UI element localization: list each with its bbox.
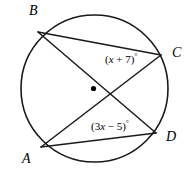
chord-bc [38, 32, 161, 55]
vertex-label-a: A [22, 152, 31, 166]
chord-bd [38, 32, 156, 133]
vertex-label-b: B [29, 4, 38, 18]
angle-label-at-c: (x + 7)° [104, 53, 138, 65]
vertex-label-d: D [166, 130, 176, 144]
angle-label-at-d: (3x − 5)° [90, 120, 130, 132]
chord-ac [41, 55, 161, 147]
chord-ad [41, 133, 156, 147]
geometry-canvas [0, 0, 195, 176]
circle-center-dot [91, 86, 96, 91]
angle-c-degree-symbol: ° [134, 52, 137, 60]
geometry-figure: B C D A (x + 7)° (3x − 5)° [0, 0, 195, 176]
angle-d-operator: − [105, 120, 117, 132]
angle-d-degree-symbol: ° [126, 119, 129, 127]
vertex-label-c: C [172, 46, 181, 60]
angle-c-operator: + [114, 53, 126, 65]
